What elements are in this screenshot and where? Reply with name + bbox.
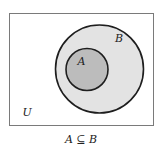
universe-label: U: [23, 106, 33, 119]
set-b-label: B: [114, 32, 123, 45]
diagram-caption: A ⊆ B: [64, 133, 97, 146]
set-a-circle: [66, 49, 108, 91]
venn-diagram: B A U A ⊆ B: [0, 0, 164, 149]
set-a-label: A: [77, 55, 86, 68]
